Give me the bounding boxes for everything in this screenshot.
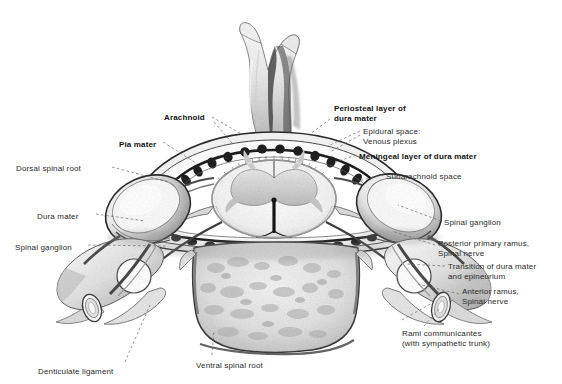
label-pia-mater: Pia mater xyxy=(119,140,156,150)
label-posterior-ramus: Posterior primary ramus, Spinal nerve xyxy=(438,239,529,258)
label-dorsal-spinal-root: Dorsal spinal root xyxy=(16,164,81,174)
label-arachnoid: Arachnoid xyxy=(164,113,205,123)
label-meningeal-layer: Meningeal layer of dura mater xyxy=(359,152,477,162)
label-subarachnoid-space: Subarachnoid space xyxy=(386,172,462,182)
label-anterior-ramus: Anterior ramus, Spinal nerve xyxy=(462,287,519,306)
label-spinal-ganglion-right: Spinal ganglion xyxy=(444,218,501,228)
label-spinal-ganglion-left: Spinal ganglion xyxy=(15,243,72,253)
label-ventral-spinal-root: Ventral spinal root xyxy=(196,361,263,371)
central-canal xyxy=(271,197,276,202)
label-dura-mater: Dura mater xyxy=(37,212,79,222)
label-periosteal-layer: Periosteal layer of dura mater xyxy=(334,104,406,123)
label-rami-communicantes: Rami communicantes (with sympathetic tru… xyxy=(402,329,490,348)
spinal-cord-cross-section-figure xyxy=(0,0,562,384)
label-transition-dura: Transition of dura mater and epineurium xyxy=(448,262,536,281)
label-epidural-space: Epidural space: Venous plexus xyxy=(363,127,420,146)
label-denticulate-ligament: Denticulate ligament xyxy=(38,367,113,377)
